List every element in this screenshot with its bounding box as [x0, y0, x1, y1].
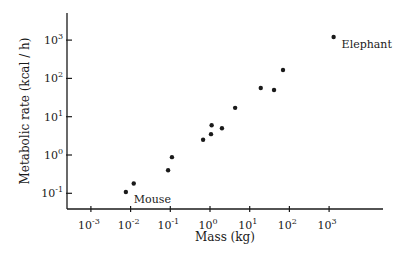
x-axis-ticks: 10-310-210-1100101102103 [78, 206, 337, 232]
y-tick-label: 100 [44, 147, 63, 162]
x-tick-label: 10-3 [78, 217, 100, 232]
point-annotation-mouse: Mouse [134, 193, 171, 206]
x-tick-label: 10-2 [118, 217, 140, 232]
x-tick-label: 103 [318, 217, 337, 232]
x-tick-label: 10-1 [157, 217, 179, 232]
data-point [281, 68, 285, 72]
y-tick-label: 10-1 [41, 185, 63, 200]
data-point [170, 155, 174, 159]
annotations: MouseElephant [134, 38, 393, 206]
x-tick-label: 102 [278, 217, 297, 232]
data-points [124, 35, 336, 194]
x-axis-label: Mass (kg) [195, 230, 255, 244]
y-axis-label: Metabolic rate (kcal / h) [18, 38, 32, 185]
data-point [209, 132, 213, 136]
data-point [259, 86, 263, 90]
data-point [331, 35, 335, 39]
data-point [201, 138, 205, 142]
data-point [220, 126, 224, 130]
scatter-chart: 10-310-210-1100101102103 10-110010110210… [0, 0, 406, 258]
data-point [272, 88, 276, 92]
y-tick-label: 101 [44, 109, 63, 124]
axes [67, 13, 383, 209]
data-point [209, 123, 213, 127]
data-point [132, 181, 136, 185]
point-annotation-elephant: Elephant [342, 38, 393, 51]
data-point [166, 168, 170, 172]
data-point [233, 106, 237, 110]
y-tick-label: 102 [44, 70, 63, 85]
data-point [124, 190, 128, 194]
y-tick-label: 103 [44, 32, 63, 47]
